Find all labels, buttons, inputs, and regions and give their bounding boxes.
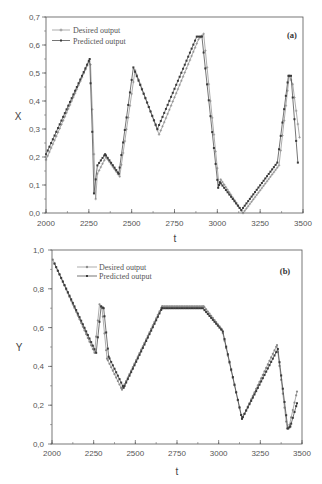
data-point-square-icon [162, 116, 164, 118]
data-point-square-icon [57, 127, 59, 129]
data-point-square-icon [124, 129, 126, 131]
data-point-square-icon [64, 112, 66, 114]
data-point-square-icon [135, 361, 137, 363]
data-point-square-icon [160, 309, 162, 311]
data-point-cross-icon [98, 169, 101, 172]
x-tick-label: 3500 [293, 449, 311, 458]
data-point-square-icon [297, 162, 299, 164]
data-point-square-icon [192, 44, 194, 46]
x-tick-label: 2000 [37, 219, 55, 228]
data-point-square-icon [134, 364, 136, 366]
data-point-square-icon [98, 162, 100, 164]
legend-b-desired-label: Desired output [99, 263, 147, 272]
data-point-square-icon [60, 120, 62, 122]
y-tick-label: 0,5 [29, 69, 41, 78]
y-axis-label-b: Y [16, 342, 23, 353]
x-tick-label: 3000 [210, 449, 228, 458]
data-point-square-icon [102, 157, 104, 159]
data-point-square-icon [170, 96, 172, 98]
data-point-square-icon [245, 202, 247, 204]
legend-a-predicted-label: Predicted output [73, 37, 126, 46]
data-point-square-icon [67, 291, 69, 293]
data-point-square-icon [235, 202, 237, 204]
data-point-dot-icon [98, 303, 100, 305]
data-point-square-icon [69, 101, 71, 103]
x-axis-label-b: t [176, 466, 179, 477]
data-point-square-icon [163, 112, 165, 114]
y-tick-label: 0,8 [33, 285, 45, 294]
data-point-square-icon [139, 84, 141, 86]
y-tick-label: 0,2 [33, 401, 45, 410]
data-point-square-icon [55, 266, 57, 268]
data-point-cross-icon [122, 152, 125, 155]
data-point-cross-icon [158, 133, 161, 136]
data-point-square-icon [220, 182, 222, 184]
data-point-square-icon [92, 345, 94, 347]
plot-a: 0,00,10,20,30,40,50,60,72000225025002750… [15, 13, 313, 244]
data-point-square-icon [237, 399, 239, 401]
data-point-square-icon [69, 295, 71, 297]
data-point-square-icon [251, 196, 253, 198]
data-point-square-icon [282, 388, 284, 390]
data-point-cross-icon [180, 79, 183, 82]
data-point-square-icon [174, 88, 176, 90]
data-point-square-icon [107, 157, 109, 159]
data-point-square-icon [294, 411, 296, 413]
data-point-cross-icon [283, 119, 286, 122]
x-tick-label: 3250 [251, 449, 269, 458]
data-point-square-icon [273, 166, 275, 168]
data-point-square-icon [52, 138, 54, 140]
data-point-cross-icon [132, 81, 135, 84]
data-point-square-icon [96, 164, 98, 166]
data-point-square-icon [179, 76, 181, 78]
y-tick-label: 1,0 [33, 246, 45, 255]
data-point-dot-icon [295, 394, 297, 396]
data-point-square-icon [110, 162, 112, 164]
data-point-square-icon [233, 200, 235, 202]
data-point-square-icon [114, 167, 116, 169]
data-point-square-icon [274, 354, 276, 356]
data-point-square-icon [209, 315, 211, 317]
data-point-square-icon [175, 84, 177, 86]
data-point-square-icon [90, 82, 92, 84]
series-desired-output [45, 33, 301, 215]
data-point-square-icon [295, 405, 297, 407]
data-point-square-icon [108, 159, 110, 161]
data-point-square-icon [79, 79, 81, 81]
data-point-square-icon [285, 414, 287, 416]
data-point-square-icon [207, 313, 209, 315]
data-point-square-icon [245, 410, 247, 412]
series-desired-output [52, 259, 298, 430]
data-point-square-icon [214, 321, 216, 323]
data-point-dot-icon [117, 380, 119, 382]
data-point-square-icon [95, 352, 97, 354]
data-point-square-icon [108, 356, 110, 358]
data-point-dot-icon [108, 363, 110, 365]
data-point-square-icon [275, 351, 277, 353]
data-point-dot-icon [115, 377, 117, 379]
data-point-square-icon [189, 52, 191, 54]
data-point-square-icon [194, 40, 196, 42]
data-point-square-icon [155, 124, 157, 126]
data-point-square-icon [47, 149, 49, 151]
data-point-square-icon [221, 185, 223, 187]
data-point-square-icon [118, 173, 120, 175]
data-point-square-icon [261, 182, 263, 184]
data-point-square-icon [112, 164, 114, 166]
data-point-square-icon [265, 371, 267, 373]
data-point-square-icon [50, 142, 52, 144]
data-point-square-icon [95, 178, 97, 180]
data-point-cross-icon [175, 92, 178, 95]
legend-a-predicted-marker-icon [60, 40, 62, 42]
data-point-square-icon [94, 348, 96, 350]
data-point-square-icon [287, 81, 289, 83]
data-point-square-icon [122, 142, 124, 144]
data-point-square-icon [208, 99, 210, 101]
data-point-square-icon [230, 196, 232, 198]
figure: 0,00,10,20,30,40,50,60,72000225025002750… [0, 0, 322, 484]
data-point-square-icon [137, 357, 139, 359]
data-point-square-icon [237, 205, 239, 207]
data-point-square-icon [153, 119, 155, 121]
data-point-square-icon [159, 312, 161, 314]
data-point-square-icon [117, 375, 119, 377]
